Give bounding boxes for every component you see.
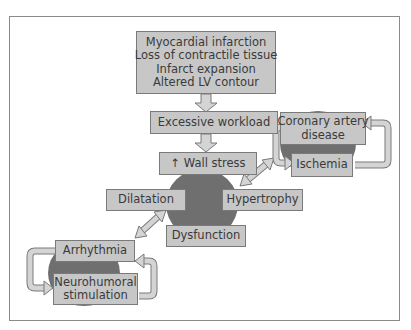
arrow-down-icon <box>195 94 217 112</box>
node-myocardial-infarction: Myocardial infarction Loss of contractil… <box>136 31 276 94</box>
node-line: disease <box>301 129 345 143</box>
node-label: Dilatation <box>118 193 174 207</box>
node-line: Loss of contractile tissue <box>135 49 278 63</box>
node-ischemia: Ischemia <box>291 153 353 177</box>
node-arrhythmia: Arrhythmia <box>55 240 135 262</box>
node-neurohumoral-stimulation: Neurohumoral stimulation <box>53 273 138 305</box>
arrow-down-icon <box>195 134 217 152</box>
node-line: Infarct expansion <box>156 63 256 77</box>
node-line: Neurohumoral <box>54 276 136 290</box>
node-label: ↑ Wall stress <box>170 157 245 171</box>
node-label: Excessive workload <box>158 116 270 130</box>
node-label: Hypertrophy <box>227 193 299 207</box>
node-label: Dysfunction <box>172 229 241 243</box>
node-line: Myocardial infarction <box>146 36 266 50</box>
node-coronary-artery-disease: Coronary artery disease <box>280 112 366 145</box>
node-label: Ischemia <box>296 158 348 172</box>
double-arrow-icon <box>135 210 166 238</box>
node-label: Arrhythmia <box>63 244 127 258</box>
node-line: Coronary artery <box>278 115 369 129</box>
node-dilatation: Dilatation <box>106 189 186 211</box>
node-excessive-workload: Excessive workload <box>150 111 278 134</box>
node-line: Altered LV contour <box>153 76 259 90</box>
node-line: stimulation <box>63 289 127 303</box>
node-dysfunction: Dysfunction <box>166 225 246 247</box>
node-hypertrophy: Hypertrophy <box>222 189 303 211</box>
node-wall-stress: ↑ Wall stress <box>159 152 257 175</box>
